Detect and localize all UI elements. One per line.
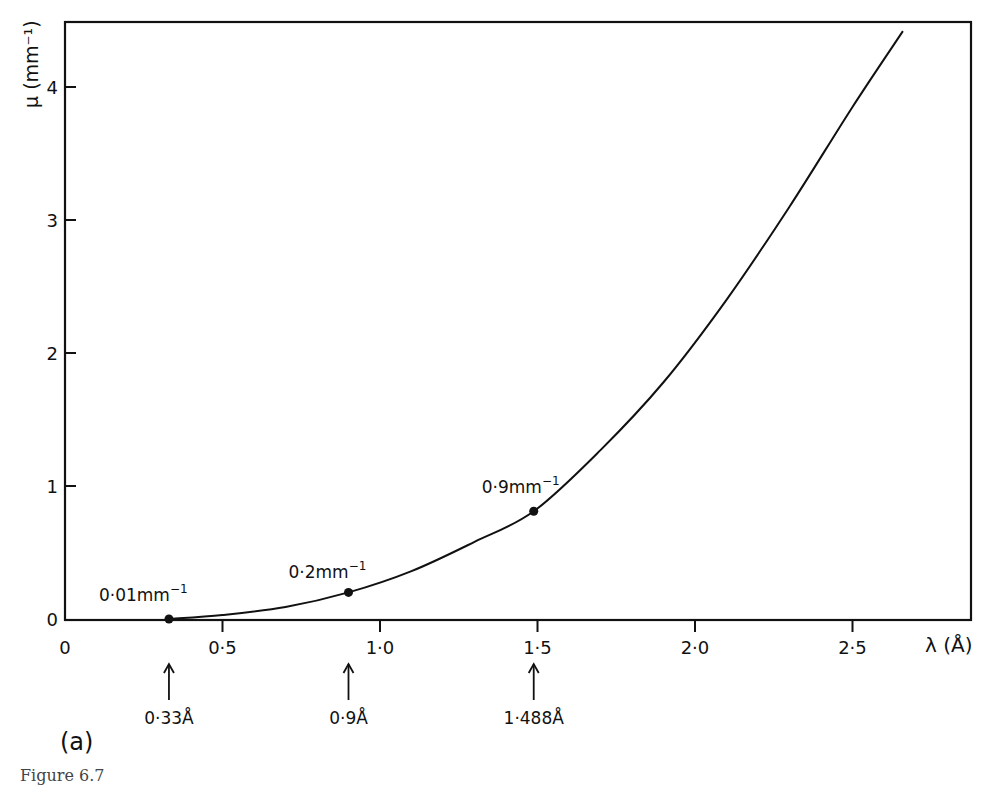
x-tick-label: 0: [59, 637, 70, 658]
x-tick-label: 0·5: [208, 637, 237, 658]
y-axis-label: μ (mm⁻¹): [20, 20, 42, 108]
y-axis-ticks: 01234: [47, 77, 76, 630]
y-tick-label: 2: [47, 343, 58, 364]
x-tick-label: 2·5: [838, 637, 867, 658]
panel-label: (a): [60, 728, 93, 756]
data-curve: [169, 31, 903, 619]
point-value-label: 0·9mm−1: [482, 474, 560, 497]
y-tick-label: 1: [47, 476, 58, 497]
marked-points: 0·01mm−10·2mm−10·9mm−1: [99, 474, 560, 623]
x-axis-label: λ (Å): [925, 633, 972, 657]
point-value-label: 0·2mm−1: [289, 559, 367, 582]
y-tick-label: 4: [47, 77, 58, 98]
plot-frame: [65, 22, 971, 620]
figure-caption: Figure 6.7: [20, 766, 104, 785]
point-value-label: 0·01mm−1: [99, 582, 188, 605]
data-point-marker: [529, 507, 538, 516]
data-point-marker: [344, 588, 353, 597]
x-axis-ticks: 00·51·01·52·02·5: [59, 620, 867, 658]
wavelength-label: 1·488Å: [504, 707, 565, 728]
data-point-marker: [164, 615, 173, 624]
wavelength-label: 0·33Å: [144, 707, 194, 728]
y-tick-label: 3: [47, 210, 58, 231]
wavelength-label: 0·9Å: [329, 707, 368, 728]
x-tick-label: 2·0: [681, 637, 710, 658]
y-tick-label: 0: [47, 609, 58, 630]
x-tick-label: 1·0: [366, 637, 395, 658]
x-tick-label: 1·5: [523, 637, 552, 658]
wavelength-arrows: 0·33Å0·9Å1·488Å: [144, 664, 564, 728]
